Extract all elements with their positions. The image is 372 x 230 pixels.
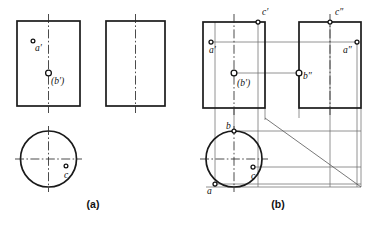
point-b-double-label-b: b″ [303, 70, 313, 81]
point-a-prime-label-a: a′ [35, 42, 43, 53]
point-c-double-marker-b [328, 20, 332, 24]
point-a-double-marker-b [355, 40, 359, 44]
point-c-top-label-b: c [251, 170, 256, 181]
point-b-prime-label-a: (b′) [51, 75, 64, 87]
point-b-top-marker-b [232, 129, 236, 133]
point-c-top-marker-b [251, 165, 255, 169]
point-a-top-label-b: a [207, 185, 212, 196]
canvas-background [0, 0, 372, 230]
point-b-top-label-b: b [226, 120, 231, 131]
point-a-prime-label-b: a′ [209, 44, 217, 55]
point-a-double-label-b: a″ [343, 44, 353, 55]
point-c-marker-a [64, 164, 68, 168]
panel-a-caption: (a) [87, 198, 100, 210]
point-c-double-label-b: c″ [335, 6, 344, 17]
engineering-drawing-canvas: a′ (b′) c (a) [0, 0, 372, 230]
point-b-double-ring-b [296, 70, 302, 76]
figure-root: a′ (b′) c (a) [0, 0, 372, 230]
point-c-prime-marker-b [256, 20, 260, 24]
point-a-top-marker-b [213, 182, 217, 186]
point-c-prime-label-b: c′ [262, 6, 269, 17]
point-b-prime-ring-b [231, 70, 237, 76]
point-b-prime-label-b: (b′) [237, 77, 250, 89]
point-c-label-a: c [64, 169, 69, 180]
panel-b-caption: (b) [271, 198, 284, 210]
